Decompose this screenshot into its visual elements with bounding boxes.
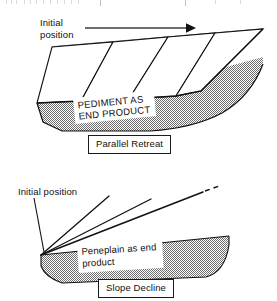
initial-position-label-bottom: Initial position <box>18 186 77 198</box>
initial-position-label-top: Initial position <box>40 17 74 40</box>
retreat-direction-arrow <box>85 23 196 33</box>
caption-slope-decline: Slope Decline <box>98 279 174 298</box>
figure-root: Initial position PEDIMENT AS END PRODUCT… <box>0 0 277 301</box>
initial-position-leader-line <box>34 198 44 252</box>
caption-parallel-retreat: Parallel Retreat <box>88 135 171 154</box>
peneplain-end-product-label: Peneplain as end product <box>77 239 164 273</box>
slope-ray-dashed-extension <box>205 185 222 191</box>
